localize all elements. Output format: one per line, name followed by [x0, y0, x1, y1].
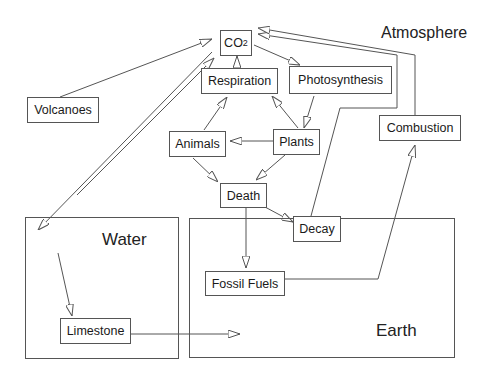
node-decay[interactable]: Decay: [293, 216, 341, 242]
node-photosynthesis[interactable]: Photosynthesis: [289, 66, 392, 94]
edge-decay-co2: [258, 34, 397, 216]
carbon-cycle-diagram: Atmosphere Water Earth CO2 Respiration P…: [0, 0, 501, 380]
node-combustion[interactable]: Combustion: [379, 115, 461, 141]
region-label-earth: Earth: [376, 321, 417, 341]
edge-animals-respiration: [204, 97, 227, 130]
edge-co2-photosynthesis: [254, 45, 300, 65]
edge-plants-respiration: [272, 96, 298, 128]
node-respiration[interactable]: Respiration: [201, 68, 278, 94]
co2-subscript: 2: [243, 38, 248, 48]
node-fossil-fuels[interactable]: Fossil Fuels: [205, 271, 285, 296]
node-co2[interactable]: CO2: [220, 30, 252, 56]
co2-label: CO: [224, 36, 243, 50]
edge-water-co2: [77, 58, 214, 195]
node-volcanoes[interactable]: Volcanoes: [27, 97, 99, 123]
region-label-atmosphere: Atmosphere: [381, 24, 467, 42]
node-animals[interactable]: Animals: [169, 131, 226, 157]
edge-volcanoes-co2: [60, 39, 212, 97]
node-death[interactable]: Death: [220, 183, 267, 208]
region-label-water: Water: [102, 230, 147, 250]
edge-plants-death: [256, 155, 285, 180]
edge-photosynthesis-plants: [304, 96, 314, 128]
edge-animals-death: [193, 158, 218, 182]
node-limestone[interactable]: Limestone: [60, 318, 131, 344]
node-plants[interactable]: Plants: [273, 129, 320, 155]
